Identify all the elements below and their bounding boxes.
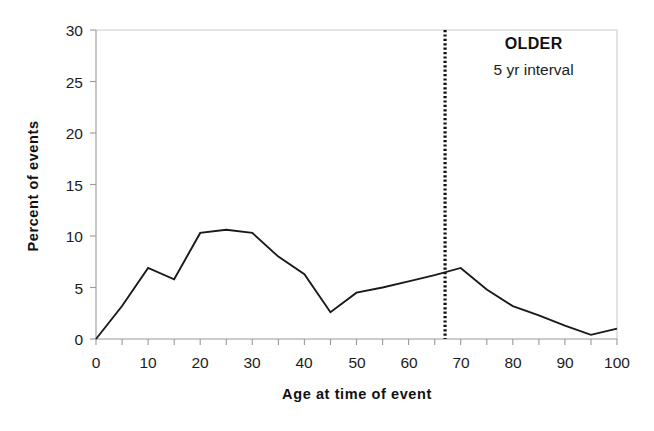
x-axis-tick-labels: 0 10 20 30 40 50 60 70 80 90 100 bbox=[92, 354, 631, 371]
y-axis-ticks bbox=[90, 30, 96, 339]
line-chart: 0 5 10 15 20 25 30 bbox=[0, 0, 654, 431]
y-tick-label-5: 5 bbox=[74, 280, 83, 297]
x-axis-ticks bbox=[96, 339, 617, 345]
x-tick-label-60: 60 bbox=[400, 354, 418, 371]
x-tick-label-10: 10 bbox=[139, 354, 157, 371]
x-tick-label-70: 70 bbox=[452, 354, 470, 371]
older-annotation: OLDER bbox=[505, 35, 563, 52]
data-line-percent-of-events bbox=[96, 230, 617, 339]
y-axis-tick-labels: 0 5 10 15 20 25 30 bbox=[66, 22, 84, 348]
x-tick-label-20: 20 bbox=[191, 354, 209, 371]
interval-annotation: 5 yr interval bbox=[494, 61, 574, 78]
y-tick-label-0: 0 bbox=[74, 331, 83, 348]
x-axis-title: Age at time of event bbox=[282, 386, 432, 402]
y-tick-label-10: 10 bbox=[66, 228, 84, 245]
x-tick-label-50: 50 bbox=[348, 354, 366, 371]
y-tick-label-25: 25 bbox=[66, 74, 83, 91]
x-tick-label-80: 80 bbox=[504, 354, 522, 371]
x-tick-label-40: 40 bbox=[295, 354, 313, 371]
chart-figure: 0 5 10 15 20 25 30 bbox=[0, 0, 654, 431]
y-tick-label-15: 15 bbox=[66, 177, 83, 194]
x-tick-label-0: 0 bbox=[92, 354, 101, 371]
y-tick-label-30: 30 bbox=[66, 22, 84, 39]
x-tick-label-90: 90 bbox=[556, 354, 574, 371]
x-tick-label-100: 100 bbox=[604, 354, 630, 371]
y-tick-label-20: 20 bbox=[66, 125, 84, 142]
x-tick-label-30: 30 bbox=[243, 354, 261, 371]
y-axis-title: Percent of events bbox=[25, 120, 41, 251]
